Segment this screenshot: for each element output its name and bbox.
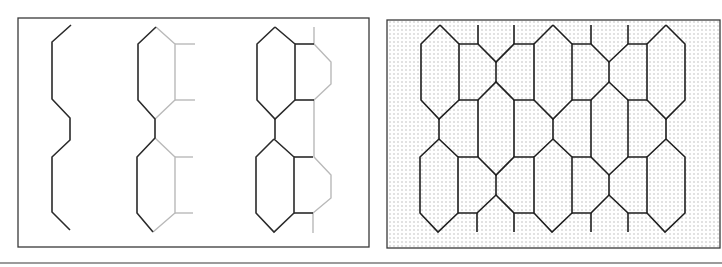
step-3-hexagon-with-pentagon [256, 27, 331, 233]
construction-guide-line [313, 27, 331, 233]
tessellation-figure [0, 0, 722, 267]
step-2-hexagon-pair [137, 27, 195, 232]
right-panel [387, 20, 720, 248]
construction-guide-line [155, 27, 175, 119]
tile-edge-line [52, 25, 71, 230]
construction-guide-line [153, 138, 175, 232]
step-1-zigzag-edge [52, 25, 71, 230]
tile-edge-line [137, 27, 156, 232]
left-panel [18, 18, 369, 247]
tile-edge-line [256, 139, 294, 232]
tile-edge-line [257, 27, 295, 119]
